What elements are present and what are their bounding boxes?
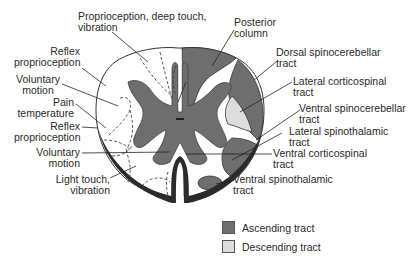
label-pain-temperature: Pain temperature — [10, 97, 74, 119]
label-voluntary-motion-lower: Voluntary motion — [20, 147, 80, 169]
label-line: vibration — [44, 185, 110, 196]
label-voluntary-motion-upper: Voluntary motion — [12, 74, 64, 96]
label-line: tract — [273, 159, 367, 170]
ascending-swatch — [222, 221, 235, 234]
label-line: tract — [233, 185, 333, 196]
central-canal — [176, 118, 184, 120]
label-lateral-corticospinal: Lateral corticospinal tract — [293, 76, 386, 98]
label-posterior-column: Posterior column — [234, 17, 276, 39]
label-line: motion — [20, 158, 80, 169]
label-line: column — [234, 28, 276, 39]
descending-swatch — [222, 240, 235, 253]
legend-label: Ascending tract — [242, 222, 314, 234]
legend-ascending: Ascending tract — [222, 221, 314, 234]
label-ventral-spinocerebellar: Ventral spinocerebellar tract — [299, 103, 406, 125]
legend-label: Descending tract — [242, 241, 321, 253]
label-line: proprioception — [14, 132, 80, 143]
label-reflex-proprioception-lower: Reflex proprioception — [14, 121, 80, 143]
label-light-touch-vibration: Light touch, vibration — [44, 174, 110, 196]
label-line: motion — [12, 85, 64, 96]
label-dorsal-spinocerebellar: Dorsal spinocerebellar tract — [276, 47, 380, 69]
label-line: proprioception — [14, 57, 80, 68]
legend-descending: Descending tract — [222, 240, 321, 253]
label-line: tract — [276, 58, 380, 69]
label-line: tract — [293, 87, 386, 98]
label-line: temperature — [10, 108, 74, 119]
label-proprioception-deep-touch: Proprioception, deep touch, vibration — [78, 11, 206, 33]
label-line: vibration — [78, 22, 206, 33]
label-ventral-spinothalamic: Ventral spinothalamic tract — [233, 174, 333, 196]
label-reflex-proprioception-upper: Reflex proprioception — [14, 46, 80, 68]
label-lateral-spinothalamic: Lateral spinothalamic tract — [289, 126, 388, 148]
label-ventral-corticospinal: Ventral corticospinal tract — [273, 148, 367, 170]
label-line: tract — [299, 114, 406, 125]
